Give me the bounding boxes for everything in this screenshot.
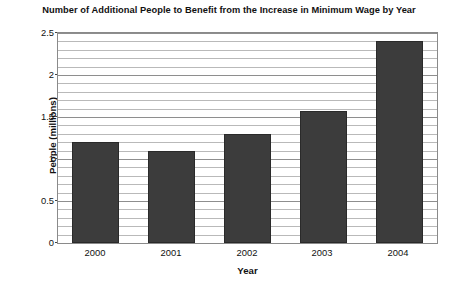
y-tick-label: 2 [8, 69, 54, 80]
bar-chart-figure: Number of Additional People to Benefit f… [0, 0, 458, 287]
y-tick-label: 1.5 [8, 111, 54, 122]
plot-area [57, 32, 438, 244]
y-tick-label: 1 [8, 153, 54, 164]
y-tick-label: 2.5 [8, 27, 54, 38]
y-axis-tick-labels: 00.511.522.5 [4, 32, 54, 244]
chart-title: Number of Additional People to Benefit f… [0, 5, 458, 15]
bar-2004 [376, 41, 423, 243]
y-tick-label: 0.5 [8, 195, 54, 206]
x-tick-label-2003: 2003 [312, 247, 333, 258]
gridline-major [58, 243, 437, 244]
x-axis-title: Year [57, 265, 438, 276]
x-tick-label-2001: 2001 [161, 247, 182, 258]
bar-2000 [72, 142, 119, 243]
x-tick-label-2000: 2000 [85, 247, 106, 258]
x-axis-tick-labels: 20002001200220032004 [57, 247, 438, 261]
bar-2003 [300, 111, 347, 243]
gridline-major [58, 33, 437, 34]
bar-2002 [224, 134, 271, 243]
bar-2001 [148, 151, 195, 243]
x-tick-label-2004: 2004 [388, 247, 409, 258]
y-tick-label: 0 [8, 237, 54, 248]
x-tick-label-2002: 2002 [237, 247, 258, 258]
